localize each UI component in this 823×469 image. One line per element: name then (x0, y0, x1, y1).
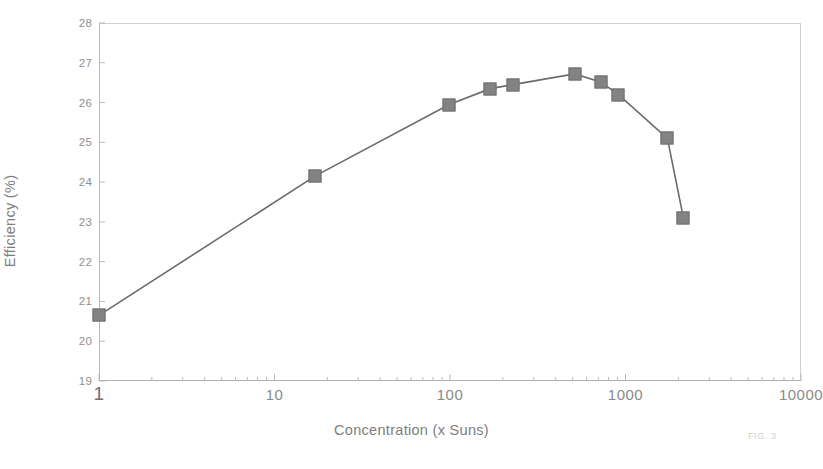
data-point-marker (484, 82, 497, 95)
data-point-marker (568, 67, 581, 80)
data-point-marker (308, 170, 321, 183)
x-axis-tick-label: 10 (266, 386, 284, 403)
x-axis-tick-label: 10000 (779, 386, 823, 403)
data-point-marker (443, 98, 456, 111)
x-axis-tick-label: 1000 (608, 386, 643, 403)
data-point-marker (661, 132, 674, 145)
chart-screenshot: 19202122232425262728 110100100010000 Con… (0, 0, 823, 469)
x-axis-tick-labels: 110100100010000 (0, 0, 823, 469)
data-point-marker (594, 75, 607, 88)
y-axis-title: Efficiency (%) (2, 128, 18, 314)
x-axis-tick-label: 100 (437, 386, 464, 403)
data-point-marker (93, 309, 106, 322)
x-axis-tick-label: 1 (93, 383, 104, 405)
figure-caption: FIG. 3 (748, 431, 777, 441)
data-point-marker (506, 78, 519, 91)
data-point-marker (612, 88, 625, 101)
data-point-marker (677, 211, 690, 224)
x-axis-title: Concentration (x Suns) (0, 422, 823, 438)
